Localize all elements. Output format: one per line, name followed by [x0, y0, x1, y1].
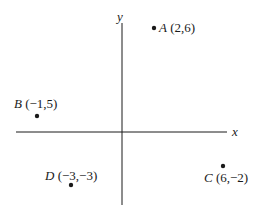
point-d-coords: (−3,−3) [58, 168, 98, 183]
point-d-dot [69, 183, 73, 187]
x-axis-label: x [232, 125, 238, 138]
point-c-coords: (6,−2) [216, 170, 248, 185]
point-d-label: D (−3,−3) [45, 169, 97, 182]
point-a-name: A [159, 20, 167, 35]
point-a-dot [152, 26, 156, 30]
point-d-name: D [45, 168, 54, 183]
point-b-label: B (−1,5) [14, 97, 57, 110]
point-c-name: C [204, 170, 213, 185]
point-c-dot [221, 164, 225, 168]
point-a-label: A (2,6) [159, 21, 195, 34]
y-axis-label: y [117, 10, 123, 23]
point-b-dot [35, 114, 39, 118]
point-c-label: C (6,−2) [204, 171, 248, 184]
point-a-coords: (2,6) [170, 20, 195, 35]
point-b-name: B [14, 96, 22, 111]
coordinate-plane: y x A (2,6) B (−1,5) C (6,−2) D (−3,−3) [0, 0, 258, 213]
point-b-coords: (−1,5) [25, 96, 57, 111]
